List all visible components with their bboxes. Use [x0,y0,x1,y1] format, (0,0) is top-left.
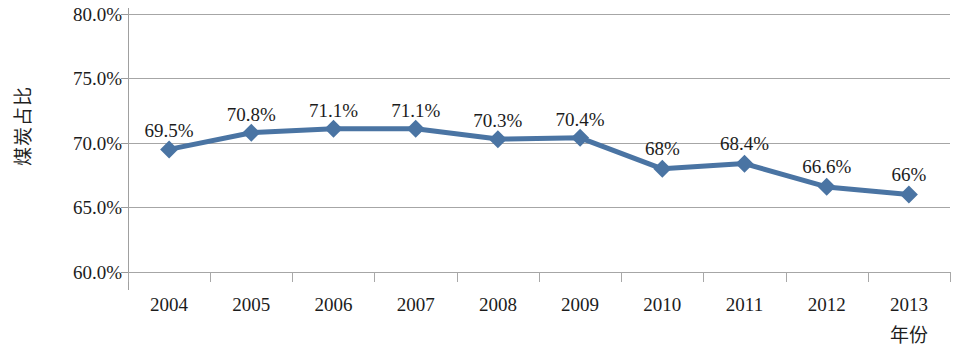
data-point-label: 69.5% [145,121,194,140]
x-tick-label: 2008 [479,295,517,314]
x-tick-label: 2007 [397,295,435,314]
x-tick-label: 2004 [150,295,188,314]
x-tick-label: 2005 [232,295,270,314]
x-tick-label: 2009 [561,295,599,314]
line-chart: 煤炭占比 80.0% 75.0% 70.0% 65.0% 60.0% 69.5%… [0,0,955,357]
x-tick-label: 2010 [643,295,681,314]
data-point-label: 70.8% [227,105,276,124]
data-point-marker [900,186,918,204]
data-point-marker [571,129,589,147]
data-point-label: 70.4% [556,110,605,129]
x-tick-label: 2013 [890,295,928,314]
data-point-label: 66.6% [802,157,851,176]
data-point-marker [653,160,671,178]
x-tick-label: 2006 [315,295,353,314]
data-point-label: 68.4% [720,134,769,153]
data-point-marker [325,120,343,138]
x-tick-label: 2012 [808,295,846,314]
data-point-marker [489,130,507,148]
data-point-marker [242,124,260,142]
x-tick-label: 2011 [726,295,763,314]
data-point-label: 68% [645,139,680,158]
data-point-label: 66% [891,165,926,184]
series-line [169,129,909,195]
data-point-marker [407,120,425,138]
x-axis-title: 年份 [890,326,928,345]
data-point-marker [818,178,836,196]
data-point-marker [736,155,754,173]
data-point-label: 71.1% [309,101,358,120]
data-point-marker [160,140,178,158]
data-point-label: 71.1% [391,101,440,120]
data-point-label: 70.3% [473,111,522,130]
